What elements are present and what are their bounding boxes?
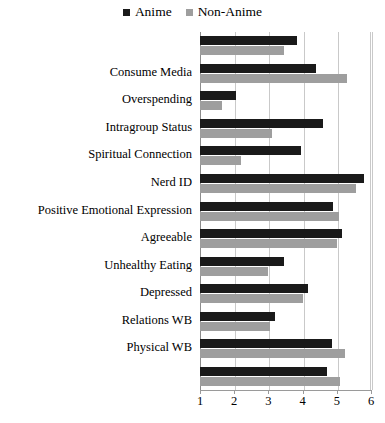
bar-non-anime [200,46,284,55]
bar-anime [200,257,284,266]
category-label: Nerd ID [0,176,196,189]
category-label: Agreeable [0,231,196,244]
x-tick-label-3: 3 [258,393,278,409]
square-marker-icon [123,9,130,16]
bar-group [200,284,371,303]
bar-group [200,257,371,276]
legend-entry-non-anime: Non-Anime [186,5,263,19]
bar-group [200,91,371,110]
bar-group [200,202,371,221]
bar-non-anime [200,267,268,276]
bars-layer [200,32,371,390]
bar-anime [200,146,301,155]
bar-non-anime [200,101,222,110]
x-tick-label-5: 5 [327,393,347,409]
category-label: Overspending [0,93,196,106]
category-label: Relations WB [0,314,196,327]
square-marker-icon [186,9,193,16]
bar-group [200,367,371,386]
legend-label-anime: Anime [135,5,172,19]
bar-non-anime [200,129,272,138]
x-tick-mark-4 [303,390,304,394]
x-tick-mark-2 [234,390,235,394]
category-label: Consume Media [0,66,196,79]
bar-group [200,119,371,138]
bar-non-anime [200,349,345,358]
bar-anime [200,339,332,348]
bar-non-anime [200,212,339,221]
x-tick-mark-5 [337,390,338,394]
x-tick-label-2: 2 [224,393,244,409]
legend-label-non-anime: Non-Anime [198,5,263,19]
bar-group [200,339,371,358]
bar-group [200,64,371,83]
category-label: Physical WB [0,341,196,354]
bar-non-anime [200,239,337,248]
bar-anime [200,119,323,128]
category-label: Spiritual Connection [0,148,196,161]
gridline-x-6 [372,32,373,390]
bar-anime [200,284,308,293]
x-tick-label-6: 6 [361,393,381,409]
bar-group [200,174,371,193]
x-tick-mark-6 [371,390,372,394]
bar-anime [200,91,236,100]
bar-anime [200,202,333,211]
bar-non-anime [200,294,303,303]
bar-anime [200,229,342,238]
bar-group [200,146,371,165]
x-axis-tick-labels: 123456 [0,393,385,413]
bar-anime [200,312,275,321]
x-tick-label-1: 1 [190,393,210,409]
x-tick-mark-3 [268,390,269,394]
x-tick-label-4: 4 [293,393,313,409]
bar-anime [200,64,316,73]
y-axis-category-labels: Consume MediaOverspendingIntragroup Stat… [0,32,196,390]
bar-non-anime [200,377,340,386]
chart-legend: Anime Non-Anime [0,2,385,22]
bar-anime [200,367,327,376]
category-label: Unhealthy Eating [0,259,196,272]
category-label: Intragroup Status [0,121,196,134]
bar-anime [200,36,297,45]
legend-entry-anime: Anime [123,5,172,19]
bar-group [200,312,371,331]
bar-non-anime [200,322,270,331]
bar-group [200,36,371,55]
x-tick-mark-1 [200,390,201,394]
x-axis-line [200,390,372,391]
bar-non-anime [200,184,356,193]
bar-non-anime [200,156,241,165]
bar-group [200,229,371,248]
bar-non-anime [200,74,347,83]
category-label: Positive Emotional Expression [0,204,196,217]
bar-anime [200,174,364,183]
category-label: Depressed [0,286,196,299]
